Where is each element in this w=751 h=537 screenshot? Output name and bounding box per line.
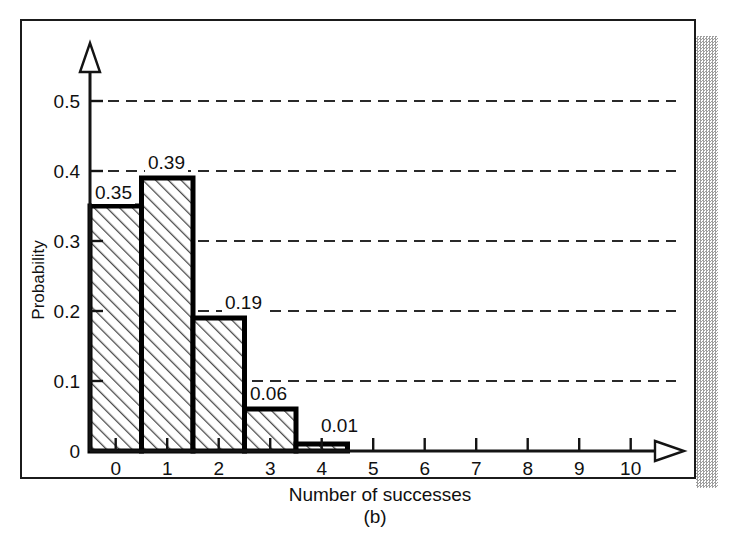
figure-root: 0.5 0.4 0.3 0.2 0.1 0 Probability 0 1 2 … [0,0,751,537]
bar-series [90,178,348,451]
bar-value-label-4: 0.01 [318,415,361,437]
figure-caption: (b) [315,507,435,526]
bar-value-label-1: 0.39 [145,152,188,174]
y-axis-title: Probability [30,220,47,340]
x-tick-label-0: 0 [96,459,136,478]
x-tick-label-6: 6 [405,459,445,478]
y-tick-label-4: 0.1 [34,372,80,391]
y-tick-label-5: 0 [34,442,80,461]
chart-svg [0,0,751,537]
bar-0 [90,206,142,451]
x-axis-arrow-icon [655,441,684,461]
x-axis-title: Number of successes [230,485,530,504]
x-tick-label-9: 9 [559,459,599,478]
x-tick-label-10: 10 [611,459,651,478]
chart-plot-area [0,0,751,537]
bar-1 [142,178,194,451]
y-tick-label-1: 0.4 [34,162,80,181]
x-tick-label-5: 5 [353,459,393,478]
y-axis-arrow-icon [80,43,100,72]
bar-value-label-0: 0.35 [92,182,135,204]
bar-value-label-3: 0.06 [247,383,290,405]
x-tick-label-7: 7 [456,459,496,478]
x-tick-label-8: 8 [508,459,548,478]
bar-2 [193,318,245,451]
x-tick-label-1: 1 [147,459,187,478]
x-tick-label-3: 3 [250,459,290,478]
x-tick-label-4: 4 [302,459,342,478]
y-tick-label-0: 0.5 [34,92,80,111]
bar-value-label-2: 0.19 [222,292,265,314]
x-tick-label-2: 2 [199,459,239,478]
